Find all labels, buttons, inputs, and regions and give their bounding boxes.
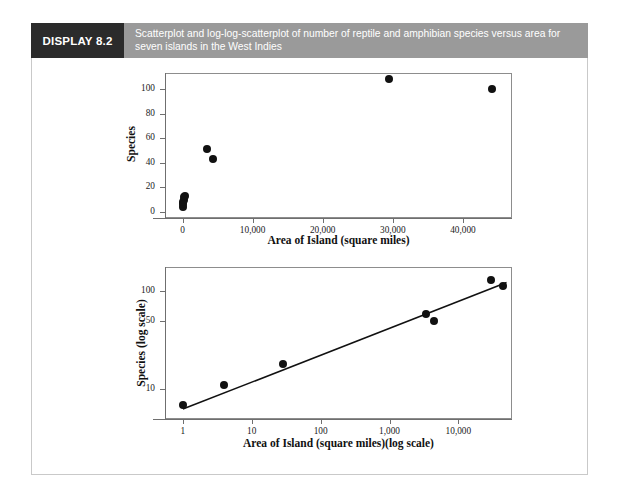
data-point [487,276,495,284]
bottom-plot-overlay [0,0,619,495]
data-point [499,282,507,290]
bottom-log-log-scatterplot: Species (log scale) Area of Island (squa… [0,0,619,495]
x-tick-label: 100 [291,426,351,436]
x-tick-label: 1 [153,426,213,436]
x-tick-label: 1,000 [360,426,420,436]
display-page: DISPLAY 8.2 Scatterplot and log-log-scat… [0,0,619,495]
y-axis-line [165,267,166,419]
data-point [279,360,287,368]
x-tick-label: 10 [222,426,282,436]
data-point [179,401,187,409]
regression-line [183,282,507,409]
y-tick-label: 10 [121,383,155,393]
y-tick-label: 100 [121,285,155,295]
x-axis-line [153,419,512,420]
x-tick-label: 10,000 [428,426,488,436]
y-tick-label: 50 [121,315,155,325]
bottom-x-axis-title: Area of Island (square miles)(log scale) [165,437,512,449]
